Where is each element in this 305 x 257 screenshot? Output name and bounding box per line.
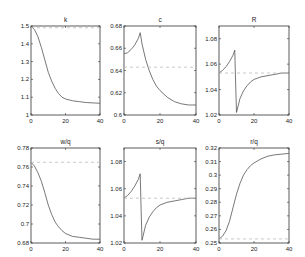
x-tick-label: 0 (29, 118, 33, 124)
y-tick-label: 0.29 (205, 186, 217, 192)
y-tick-label: 0.76 (17, 164, 29, 170)
x-tick-label: 0 (29, 246, 33, 252)
subplot-c: c0.60.620.640.660.6802040 (110, 16, 200, 124)
y-tick-label: 1.06 (110, 186, 122, 192)
y-tick-label: 0.66 (110, 45, 122, 51)
subplot-title: R (252, 16, 257, 23)
axes-frame (219, 148, 289, 243)
y-tick-label: 0.26 (205, 226, 217, 232)
x-tick-label: 20 (157, 118, 164, 124)
y-tick-label: 1.2 (21, 76, 30, 82)
y-tick-label: 0.74 (17, 183, 29, 189)
x-tick-label: 0 (122, 118, 126, 124)
y-tick-label: 1.08 (205, 36, 217, 42)
y-tick-label: 0.25 (205, 240, 217, 246)
axes-frame (219, 26, 289, 115)
y-tick-label: 0.3 (209, 172, 218, 178)
y-tick-label: 1.5 (21, 23, 30, 29)
x-tick-label: 0 (122, 246, 126, 252)
subplot-title: s/q (156, 138, 165, 146)
x-tick-label: 0 (217, 118, 221, 124)
subplot-title: c (158, 16, 162, 23)
y-tick-label: 1.02 (110, 240, 122, 246)
y-tick-label: 0.28 (205, 199, 217, 205)
y-tick-label: 0.72 (17, 202, 29, 208)
y-tick-label: 0.68 (17, 240, 29, 246)
y-tick-label: 1.04 (205, 87, 217, 93)
y-tick-label: 0.64 (110, 68, 122, 74)
y-tick-label: 1.4 (21, 41, 30, 47)
figure-canvas: k11.11.21.31.41.502040c0.60.620.640.660.… (0, 0, 305, 257)
subplot-title: k (64, 16, 68, 23)
axes-frame (124, 26, 196, 115)
y-tick-label: 1.3 (21, 59, 30, 65)
subplot-w-over-q: w/q0.680.70.720.740.760.7802040 (17, 138, 104, 252)
x-tick-label: 0 (217, 246, 221, 252)
axes-frame (31, 148, 100, 243)
x-tick-label: 40 (286, 246, 293, 252)
x-tick-label: 40 (97, 246, 104, 252)
axes-frame (31, 26, 100, 115)
x-tick-label: 40 (286, 118, 293, 124)
x-tick-label: 20 (157, 246, 164, 252)
y-tick-label: 1.1 (21, 94, 30, 100)
y-tick-label: 1.02 (205, 112, 217, 118)
y-tick-label: 0.32 (205, 145, 217, 151)
subplot-title: r/q (250, 138, 258, 146)
y-tick-label: 0.78 (17, 145, 29, 151)
subplot-R: R1.021.041.061.0802040 (205, 16, 293, 124)
x-tick-label: 20 (251, 118, 258, 124)
subplot-k: k11.11.21.31.41.502040 (21, 16, 104, 124)
x-tick-label: 40 (193, 246, 200, 252)
y-tick-label: 1.08 (110, 159, 122, 165)
x-tick-label: 40 (193, 118, 200, 124)
x-tick-label: 20 (62, 118, 69, 124)
y-tick-label: 0.68 (110, 23, 122, 29)
subplot-r-over-q: r/q0.250.260.270.280.290.30.310.3202040 (205, 138, 293, 252)
y-tick-label: 0.62 (110, 90, 122, 96)
subplot-title: w/q (59, 138, 71, 146)
y-tick-label: 1.04 (110, 213, 122, 219)
subplot-s-over-q: s/q1.021.041.061.0802040 (110, 138, 200, 252)
y-tick-label: 0.7 (21, 221, 30, 227)
x-tick-label: 20 (62, 246, 69, 252)
x-tick-label: 20 (251, 246, 258, 252)
axes-frame (124, 148, 196, 243)
y-tick-label: 0.6 (114, 112, 123, 118)
y-tick-label: 1.06 (205, 61, 217, 67)
x-tick-label: 40 (97, 118, 104, 124)
y-tick-label: 0.31 (205, 159, 217, 165)
y-tick-label: 0.27 (205, 213, 217, 219)
